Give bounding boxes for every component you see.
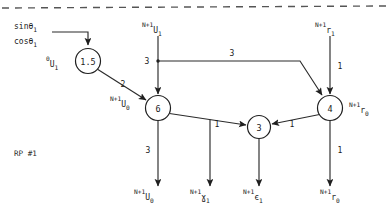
u1-input-sub: 1 [158,31,162,38]
signal-flow-graph: sinθ1 cosθ1 0U1 1.5 2 N+1U1 3 3 N+1U [0,0,389,217]
e1-output-sub: 1 [259,198,263,205]
signal-label-sin-theta1: sinθ1 [14,22,37,34]
weight-n4-to-r0-out: 1 [338,146,343,155]
r0-output-sub: 0 [336,198,340,205]
cos-theta1-sub: 1 [33,41,37,48]
sin-theta1-sub: 1 [33,26,37,33]
r1-input-sup: N+1 [315,21,326,28]
weight-n4-to-n3: 1 [290,120,295,129]
cos-theta1-base: cosθ [14,37,33,46]
r1-input-sub: 1 [331,31,335,38]
node-6-label: 6 [155,104,160,114]
signal-label-u0-node: N+1U0 [110,95,130,111]
sin-theta1-base: sinθ [14,22,33,31]
weight-r1-to-n4: 1 [338,62,343,71]
weight-n6-to-u0-out: 3 [146,146,151,155]
signal-label-u1-initial: 0U1 [46,55,59,71]
top-dashed-rule [2,6,386,8]
edge-n6-to-n3 [170,114,247,126]
signal-label-r0-output: N+1r0 [320,188,340,204]
y1-output-sub: 1 [206,198,210,205]
u0-output-sup: N+1 [134,188,145,195]
weight-n15-to-n6: 2 [121,80,126,89]
node-4-label: 4 [327,104,332,114]
node-1.5-label: 1.5 [80,57,95,67]
e1-output-sup: N+1 [243,188,254,195]
u1-initial-sub: 1 [55,65,59,72]
node-3-label: 3 [256,123,261,133]
edge-n4-to-n3 [272,115,320,125]
u0-node-sup: N+1 [110,95,121,102]
u0-output-sub: 0 [150,198,154,205]
u1-input-sup: N+1 [142,21,153,28]
signal-label-u0-output: N+1U0 [134,188,154,204]
signal-label-r1-input: N+1r1 [315,21,335,37]
signal-label-cos-theta1: cosθ1 [14,37,37,49]
weight-u1-to-n4: 3 [230,49,235,58]
signal-label-r0-node: N+1r0 [349,101,369,117]
r0-output-sup: N+1 [320,188,331,195]
r0-node-sub: 0 [365,111,369,118]
edge-inputs-to-n15 [52,32,88,45]
signal-label-y1-output: N+1ɣ1 [190,188,210,204]
diagram-canvas: sinθ1 cosθ1 0U1 1.5 2 N+1U1 3 3 N+1U [0,0,389,217]
weight-n6-to-n3: 1 [215,120,220,129]
y1-output-sup: N+1 [190,188,201,195]
r0-node-sup: N+1 [349,101,360,108]
u0-node-sub: 0 [126,105,130,112]
signal-label-e1-output: N+1є1 [243,188,263,204]
diagram-caption: RP #1 [14,149,37,158]
edge-u1-to-n4 [158,61,322,95]
weight-u1-to-n6: 3 [145,57,150,66]
signal-label-u1-input: N+1U1 [142,21,162,37]
